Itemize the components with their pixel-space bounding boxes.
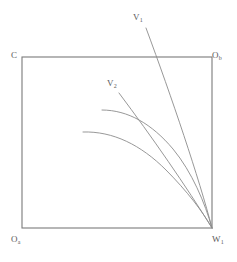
corner-label-bottom-right: W1	[212, 235, 224, 244]
diagram-svg	[0, 0, 237, 262]
bounding-box	[22, 57, 212, 228]
arc-lower-curve	[83, 132, 212, 228]
corner-label-bottom-left: Oa	[11, 235, 20, 244]
curve-label-v2: V2	[107, 79, 117, 88]
arc-upper-curve	[102, 110, 212, 228]
figure-canvas: C Ob Oa W1 V1 V2	[0, 0, 237, 262]
line-v2-curve	[119, 93, 212, 228]
corner-label-top-left: C	[11, 51, 17, 60]
corner-label-top-right: Ob	[212, 51, 222, 60]
curve-label-v1: V1	[133, 13, 143, 22]
